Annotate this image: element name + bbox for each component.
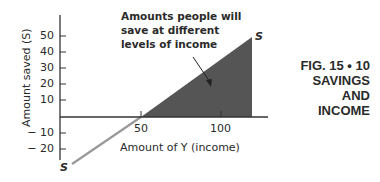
figure-number: FIG. 15 • 10 <box>300 58 370 73</box>
annotation-text: Amounts people will save at different le… <box>121 9 241 51</box>
figure-title-line: AND <box>300 88 370 103</box>
x-tick-label: 50 <box>134 122 148 135</box>
y-tick-label: − 10 <box>22 126 54 139</box>
figure-title-line: INCOME <box>300 103 370 118</box>
figure-title-line: SAVINGS <box>300 73 370 88</box>
x-axis-label: Amount of Y (income) <box>120 141 240 154</box>
annotation-line: levels of income <box>121 37 241 51</box>
curve-label-top: S <box>255 30 263 43</box>
y-ticks <box>60 36 66 149</box>
annotation-line: save at different <box>121 23 241 37</box>
curve-label-bottom: S <box>60 161 68 174</box>
y-axis-label: Amount saved (S) <box>20 28 33 127</box>
y-tick-label: − 20 <box>22 142 54 155</box>
figure-caption: FIG. 15 • 10 SAVINGS AND INCOME <box>300 58 370 118</box>
x-tick-label: 100 <box>210 122 231 135</box>
annotation-line: Amounts people will <box>121 9 241 23</box>
